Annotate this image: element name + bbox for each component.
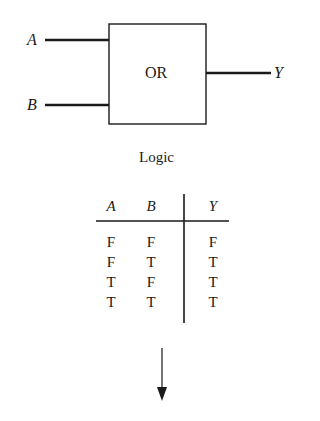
gate-type-label: OR xyxy=(145,65,167,81)
table-header-b: B xyxy=(141,198,161,214)
cell-y: T xyxy=(203,274,223,290)
table-header-a: A xyxy=(101,198,121,214)
input-b-label: B xyxy=(27,97,37,113)
down-arrow-icon xyxy=(157,387,167,401)
cell-a: F xyxy=(101,234,121,250)
input-a-label: A xyxy=(27,32,37,48)
table-header-y: Y xyxy=(203,198,223,214)
diagram-caption: Logic xyxy=(139,149,174,165)
cell-b: F xyxy=(141,234,161,250)
cell-y: F xyxy=(203,234,223,250)
cell-a: F xyxy=(101,254,121,270)
cell-b: T xyxy=(141,254,161,270)
cell-y: T xyxy=(203,294,223,310)
output-y-label: Y xyxy=(274,65,283,81)
cell-b: T xyxy=(141,294,161,310)
cell-b: F xyxy=(141,274,161,290)
cell-a: T xyxy=(101,294,121,310)
cell-y: T xyxy=(203,254,223,270)
cell-a: T xyxy=(101,274,121,290)
